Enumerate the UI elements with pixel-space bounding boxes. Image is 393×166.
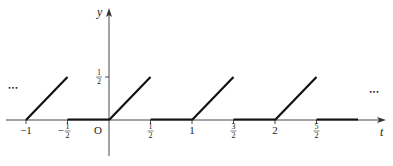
x-tick-denominator: 2 <box>149 131 153 140</box>
x-tick-fraction-label: 12 <box>148 122 154 140</box>
y-tick-fraction-label: 12 <box>96 68 102 86</box>
ellipsis-annotation-continues-right: ••• <box>369 88 379 96</box>
x-tick-numerator: 1 <box>149 122 153 131</box>
origin-label: O <box>94 124 102 136</box>
y-axis-label: y <box>96 5 103 19</box>
x-tick-numerator: 3 <box>232 122 236 131</box>
y-tick-denominator: 2 <box>97 77 101 86</box>
x-tick-label: 2 <box>272 124 278 136</box>
x-tick-label: −1 <box>20 124 32 136</box>
x-tick-denominator: 2 <box>315 131 319 140</box>
series-segment-ramp <box>275 77 317 120</box>
x-tick-numerator: 5 <box>315 122 319 131</box>
series-segment-ramp <box>109 77 151 120</box>
series <box>26 77 358 120</box>
x-tick-fraction-label: −12 <box>57 122 70 140</box>
periodic-function-chart: −1−121213225212 tyO•••••• <box>0 0 393 166</box>
x-tick-fraction-label: 52 <box>314 122 320 140</box>
series-segment-ramp <box>192 77 234 120</box>
x-tick-denominator: 2 <box>66 131 70 140</box>
ellipsis-annotation-continues-left: ••• <box>8 84 18 92</box>
x-tick-numerator: 1 <box>66 122 70 131</box>
x-tick-fraction-label: 32 <box>231 122 237 140</box>
x-tick-denominator: 2 <box>232 131 236 140</box>
x-axis-label: t <box>380 125 384 139</box>
x-tick-label: 1 <box>189 124 195 136</box>
y-tick-numerator: 1 <box>97 68 101 77</box>
x-tick-sign: − <box>57 124 63 136</box>
series-segment-ramp <box>26 77 68 120</box>
